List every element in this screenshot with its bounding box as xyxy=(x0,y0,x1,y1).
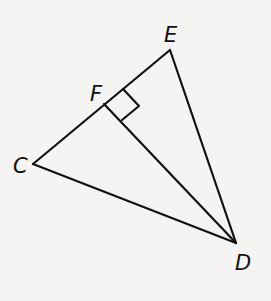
geometry-diagram: E F C D xyxy=(0,0,271,301)
right-angle-marker xyxy=(122,89,139,120)
label-f: F xyxy=(90,82,103,106)
diagram-svg: E F C D xyxy=(0,0,271,301)
segment-ed xyxy=(170,50,236,243)
segment-cd xyxy=(33,164,236,243)
label-e: E xyxy=(164,23,178,47)
label-d: D xyxy=(235,251,251,275)
segment-ce xyxy=(33,50,170,164)
label-c: C xyxy=(13,154,28,178)
segment-fd xyxy=(104,104,236,243)
